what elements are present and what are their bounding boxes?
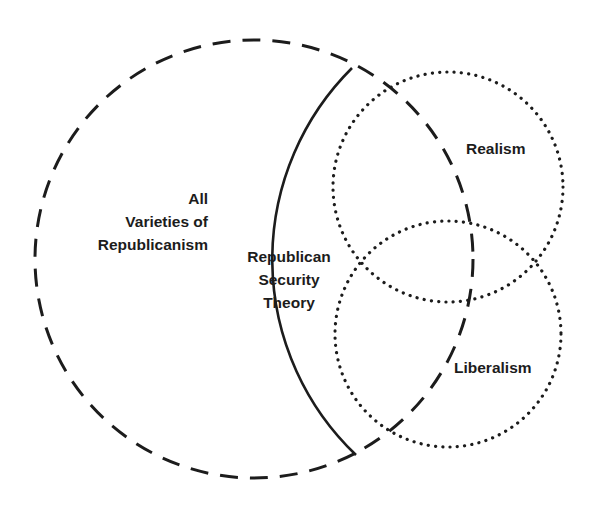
label-line: Varieties of xyxy=(70,210,208,233)
realism-label: Realism xyxy=(466,137,525,160)
all-republicanism-label: All Varieties of Republicanism xyxy=(70,187,208,256)
republican-security-theory-label: Republican Security Theory xyxy=(236,245,342,314)
label-line: Republicanism xyxy=(70,233,208,256)
label-line: Security xyxy=(236,268,342,291)
liberalism-circle xyxy=(335,221,561,447)
liberalism-label: Liberalism xyxy=(454,356,532,379)
label-line: Republican xyxy=(236,245,342,268)
realism-circle xyxy=(333,72,563,302)
label-line: Theory xyxy=(236,291,342,314)
label-line: All xyxy=(70,187,208,210)
